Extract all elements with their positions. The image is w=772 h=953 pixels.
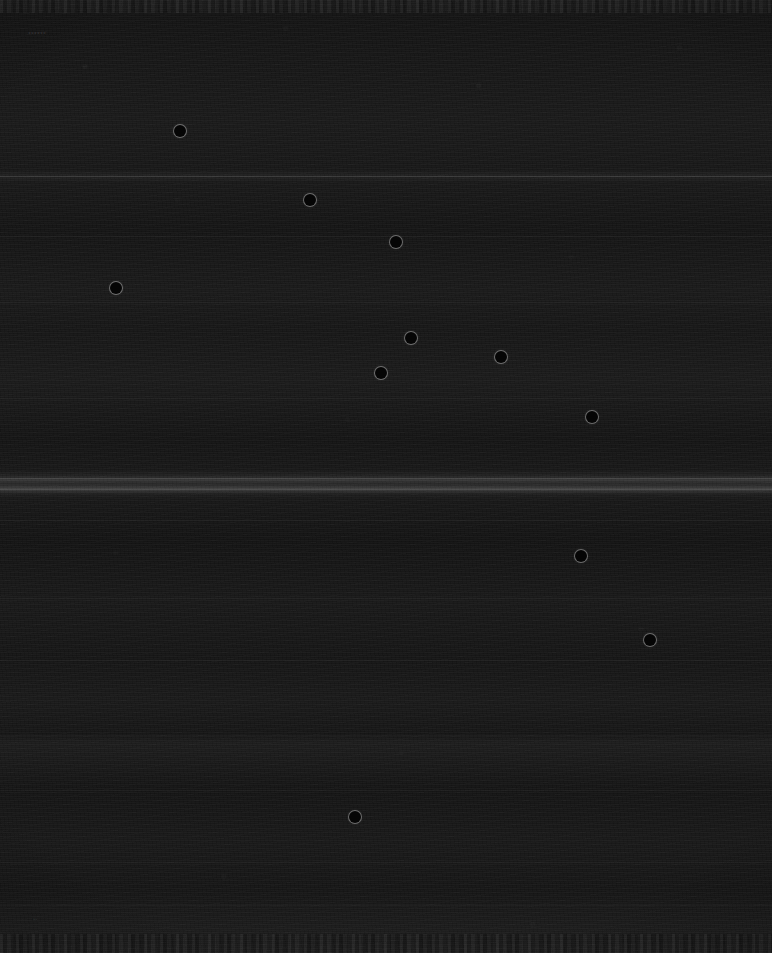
scatter-marker[interactable]: [349, 811, 361, 823]
scatter-marker[interactable]: [586, 411, 598, 423]
luminance-band-layer: [0, 0, 772, 953]
bottom-left-label: ••: [33, 916, 38, 922]
dark-scan-canvas[interactable]: •••••• ••: [0, 0, 772, 953]
scatter-marker[interactable]: [644, 634, 656, 646]
scatter-marker[interactable]: [575, 550, 587, 562]
top-left-label: ••••••: [28, 29, 46, 37]
scatter-marker[interactable]: [375, 367, 387, 379]
scatter-marker[interactable]: [174, 125, 186, 137]
scatter-marker[interactable]: [405, 332, 417, 344]
scatter-marker[interactable]: [110, 282, 122, 294]
scatter-marker[interactable]: [495, 351, 507, 363]
scatter-marker[interactable]: [304, 194, 316, 206]
scatter-marker[interactable]: [390, 236, 402, 248]
